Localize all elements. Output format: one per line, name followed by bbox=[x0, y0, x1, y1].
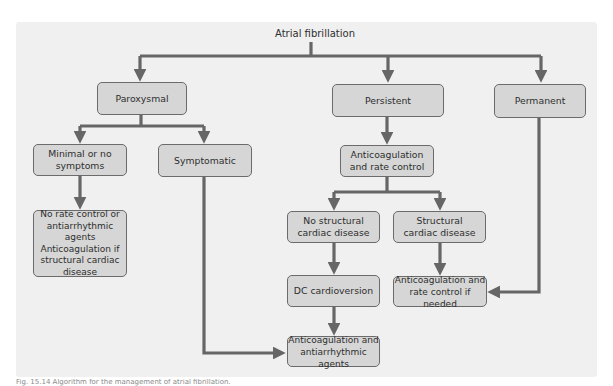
node-structural: Structural cardiac disease bbox=[393, 211, 486, 243]
figure-caption: Fig. 15.14 Algorithm for the management … bbox=[16, 379, 396, 386]
node-paroxysmal: Paroxysmal bbox=[97, 82, 187, 115]
node-anticoag-rate-control: Anticoagulation and rate control bbox=[340, 145, 434, 177]
node-minimal-symptoms: Minimal or no symptoms bbox=[33, 144, 127, 176]
node-no-structural: No structural cardiac disease bbox=[287, 211, 380, 243]
node-anticoag-rate-if-needed: Anticoagulation and rate control if need… bbox=[393, 276, 487, 307]
node-symptomatic: Symptomatic bbox=[158, 144, 252, 177]
node-persistent: Persistent bbox=[332, 84, 444, 117]
node-anticoag-antiarrhythmic: Anticoagulation and antiarrhythmic agent… bbox=[287, 336, 380, 367]
diagram-title: Atrial fibrillation bbox=[250, 28, 380, 39]
connectors bbox=[0, 0, 613, 386]
node-permanent: Permanent bbox=[494, 84, 586, 118]
node-no-rate-control: No rate control or antiarrhythmic agents… bbox=[33, 210, 127, 277]
node-dc-cardioversion: DC cardioversion bbox=[287, 275, 380, 307]
